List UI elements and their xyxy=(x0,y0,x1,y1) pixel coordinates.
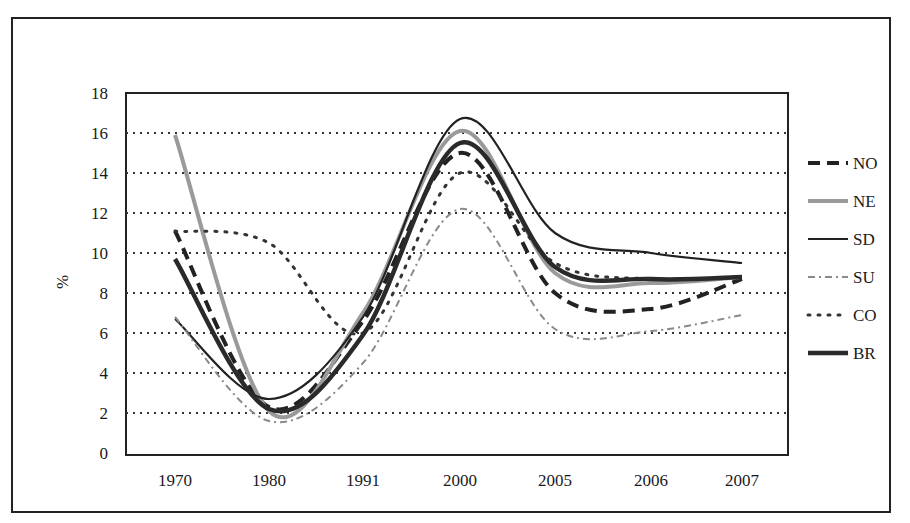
series-lines xyxy=(175,118,742,422)
x-axis-ticks: 1970198019912000200520062007 xyxy=(158,471,760,490)
x-tick-label: 1991 xyxy=(346,471,380,490)
y-tick-label: 6 xyxy=(100,324,109,343)
legend-label: SD xyxy=(853,230,875,249)
legend-label: SU xyxy=(853,268,875,287)
gridlines xyxy=(126,133,788,413)
x-tick-label: 2005 xyxy=(538,471,572,490)
legend-label: BR xyxy=(853,344,876,363)
y-tick-label: 0 xyxy=(100,444,109,463)
legend-item-ne: NE xyxy=(808,192,876,211)
legend-item-br: BR xyxy=(808,344,876,363)
y-tick-label: 16 xyxy=(91,124,108,143)
y-tick-label: 12 xyxy=(91,204,108,223)
y-axis-label: % xyxy=(53,275,72,289)
x-tick-label: 1980 xyxy=(252,471,286,490)
series-line-su xyxy=(175,209,742,422)
legend-item-no: NO xyxy=(808,154,878,173)
y-tick-label: 14 xyxy=(91,164,109,183)
y-tick-label: 8 xyxy=(100,284,109,303)
y-tick-label: 10 xyxy=(91,244,108,263)
series-line-br xyxy=(175,142,742,411)
x-tick-label: 2006 xyxy=(634,471,668,490)
legend-item-sd: SD xyxy=(808,230,875,249)
y-tick-label: 18 xyxy=(91,84,108,103)
legend: NONESDSUCOBR xyxy=(808,154,878,363)
x-tick-label: 2000 xyxy=(443,471,477,490)
legend-item-su: SU xyxy=(808,268,875,287)
plot-area xyxy=(126,93,788,455)
y-tick-label: 2 xyxy=(100,404,109,423)
line-chart: 024681012141618 % 1970198019912000200520… xyxy=(0,0,910,523)
legend-label: CO xyxy=(853,306,877,325)
y-tick-label: 4 xyxy=(100,364,109,383)
x-tick-label: 2007 xyxy=(725,471,760,490)
legend-label: NO xyxy=(853,154,878,173)
legend-label: NE xyxy=(853,192,876,211)
legend-item-co: CO xyxy=(808,306,877,325)
series-line-sd xyxy=(175,118,742,399)
x-tick-label: 1970 xyxy=(158,471,192,490)
y-axis-ticks: 024681012141618 xyxy=(91,84,109,463)
